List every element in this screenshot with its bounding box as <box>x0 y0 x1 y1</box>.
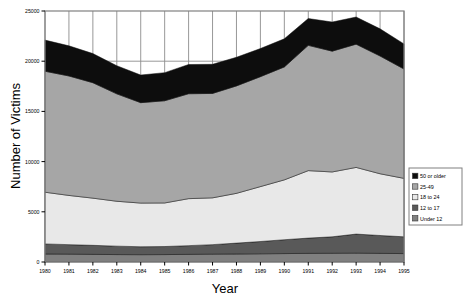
y-axis: 0500010000150002000025000 <box>25 8 45 265</box>
legend-swatch <box>413 194 418 199</box>
x-tick-label: 1989 <box>255 268 267 274</box>
legend-swatch <box>413 205 418 210</box>
legend-label: 12 to 17 <box>420 205 439 211</box>
x-tick-label: 1994 <box>374 268 386 274</box>
x-tick-label: 1995 <box>398 268 410 274</box>
x-tick-label: 1980 <box>39 268 51 274</box>
x-tick-label: 1990 <box>279 268 291 274</box>
legend-label: 18 to 24 <box>420 194 439 200</box>
legend-label: Under 12 <box>420 216 442 222</box>
legend-label: 50 or older <box>420 173 446 179</box>
x-tick-label: 1987 <box>207 268 219 274</box>
x-tick-label: 1983 <box>111 268 123 274</box>
y-tick-label: 15000 <box>25 108 40 114</box>
x-axis-title: Year <box>212 281 239 296</box>
x-tick-label: 1988 <box>231 268 243 274</box>
x-tick-label: 1982 <box>87 268 99 274</box>
x-tick-label: 1984 <box>135 268 147 274</box>
x-tick-label: 1991 <box>302 268 314 274</box>
y-tick-label: 10000 <box>25 159 40 165</box>
y-axis-title: Number of Victims <box>8 83 23 189</box>
legend-swatch <box>413 216 418 221</box>
x-tick-label: 1992 <box>326 268 338 274</box>
y-tick-label: 0 <box>37 259 40 265</box>
stacked-area-chart: 0500010000150002000025000 19801981198219… <box>0 0 465 299</box>
legend-label: 25-49 <box>420 184 434 190</box>
y-tick-label: 25000 <box>25 8 40 14</box>
legend: 50 or older25-4918 to 2412 to 17Under 12 <box>409 168 462 225</box>
legend-swatch <box>413 173 418 178</box>
x-tick-label: 1981 <box>63 268 75 274</box>
chart-canvas: 0500010000150002000025000 19801981198219… <box>0 0 465 299</box>
y-tick-label: 5000 <box>28 209 40 215</box>
legend-swatch <box>413 184 418 189</box>
x-axis: 1980198119821983198419851986198719881989… <box>39 262 410 274</box>
x-tick-label: 1986 <box>183 268 195 274</box>
y-tick-label: 20000 <box>25 58 40 64</box>
x-tick-label: 1993 <box>350 268 362 274</box>
x-tick-label: 1985 <box>159 268 171 274</box>
